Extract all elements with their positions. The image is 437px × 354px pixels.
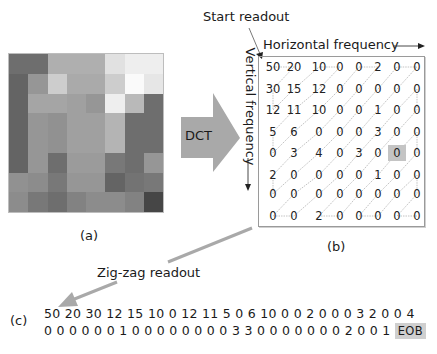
- dct-coefficient: 0: [350, 167, 368, 183]
- pixel-cell: [9, 94, 28, 114]
- dct-coefficient: 15: [285, 81, 303, 97]
- zigzag-sequence-values: 0 0 0 0 0 0 1 0 0 0 0 0 0 0 0 3 3 0 0 0 …: [44, 323, 390, 338]
- dct-coefficient: 20: [285, 59, 303, 75]
- dct-coefficient: 0: [369, 145, 387, 161]
- dct-label: DCT: [185, 128, 212, 143]
- dct-coefficient: 0: [408, 208, 426, 224]
- dct-coefficient: 0: [408, 59, 426, 75]
- pixel-cell: [125, 173, 144, 193]
- dct-coefficient: 0: [285, 167, 303, 183]
- pixel-cell: [48, 192, 67, 212]
- dct-coefficient: 0: [369, 81, 387, 97]
- pixel-cell: [67, 94, 86, 114]
- pixel-cell: [9, 74, 28, 94]
- pixel-cell: [9, 192, 28, 212]
- pixel-cell: [67, 192, 86, 212]
- dct-coefficient: 0: [310, 124, 328, 140]
- pixel-cell: [86, 192, 105, 212]
- pixel-cell: [86, 133, 105, 153]
- pixel-cell: [48, 94, 67, 114]
- dct-coefficient: 10: [310, 59, 328, 75]
- dct-coefficient: 1: [369, 167, 387, 183]
- pixel-cell: [125, 54, 144, 74]
- pixel-cell: [105, 133, 124, 153]
- pixel-cell: [105, 173, 124, 193]
- horizontal-arrow-icon: [393, 40, 427, 52]
- pixel-block-image: [8, 53, 164, 213]
- pixel-cell: [48, 54, 67, 74]
- dct-coefficient: 0: [285, 208, 303, 224]
- pixel-cell: [125, 94, 144, 114]
- dct-coefficient: 0: [408, 81, 426, 97]
- pixel-cell: [105, 74, 124, 94]
- dct-coefficient: 2: [310, 208, 328, 224]
- pixel-cell: [48, 113, 67, 133]
- dct-coefficient: 4: [310, 145, 328, 161]
- panel-c-label: (c): [10, 313, 27, 328]
- dct-coefficient: 0: [388, 59, 406, 75]
- pixel-cell: [144, 94, 163, 114]
- dct-coefficient: 0: [350, 102, 368, 118]
- dct-coefficient: 0: [388, 186, 406, 202]
- dct-coefficient: 0: [310, 186, 328, 202]
- pixel-cell: [144, 173, 163, 193]
- pixel-cell: [144, 54, 163, 74]
- pixel-cell: [86, 113, 105, 133]
- dct-coefficient: 0: [264, 186, 282, 202]
- pixel-cell: [105, 54, 124, 74]
- pixel-cell: [28, 54, 47, 74]
- start-readout-label: Start readout: [203, 9, 289, 24]
- vertical-frequency-label: Vertical frequency: [243, 48, 258, 158]
- pixel-cell: [67, 153, 86, 173]
- dct-coefficient: 0: [388, 145, 406, 161]
- pixel-cell: [28, 74, 47, 94]
- pixel-cell: [48, 133, 67, 153]
- pixel-cell: [67, 74, 86, 94]
- dct-coefficient: 3: [369, 124, 387, 140]
- dct-coefficient: 0: [331, 186, 349, 202]
- dct-coefficient: 5: [264, 124, 282, 140]
- pixel-cell: [28, 113, 47, 133]
- pixel-cell: [105, 192, 124, 212]
- pixel-cell: [28, 94, 47, 114]
- pixel-cell: [67, 54, 86, 74]
- dct-coefficient: 0: [331, 124, 349, 140]
- dct-coefficient: 0: [369, 186, 387, 202]
- dct-coefficient: 0: [331, 59, 349, 75]
- dct-coefficient: 0: [350, 59, 368, 75]
- pixel-cell: [86, 54, 105, 74]
- dct-coefficient: 0: [264, 208, 282, 224]
- dct-coefficient: 10: [310, 102, 328, 118]
- pixel-cell: [48, 153, 67, 173]
- dct-coefficient: 0: [350, 186, 368, 202]
- pixel-cell: [86, 153, 105, 173]
- dct-coefficient: 1: [369, 102, 387, 118]
- pixel-cell: [86, 173, 105, 193]
- dct-coefficient: 0: [350, 208, 368, 224]
- dct-coefficient-matrix: 5020100020030151200000121110001005600030…: [258, 56, 425, 227]
- pixel-cell: [67, 113, 86, 133]
- dct-coefficient: 11: [285, 102, 303, 118]
- pixel-cell: [144, 113, 163, 133]
- pixel-cell: [9, 54, 28, 74]
- dct-coefficient: 0: [388, 208, 406, 224]
- pixel-cell: [86, 94, 105, 114]
- dct-coefficient: 0: [388, 81, 406, 97]
- pixel-cell: [105, 94, 124, 114]
- dct-coefficient: 12: [310, 81, 328, 97]
- dct-coefficient: 0: [369, 208, 387, 224]
- pixel-cell: [144, 74, 163, 94]
- dct-coefficient: 0: [408, 145, 426, 161]
- pixel-cell: [125, 74, 144, 94]
- pixel-cell: [125, 113, 144, 133]
- dct-coefficient: 0: [331, 102, 349, 118]
- dct-coefficient: 2: [369, 59, 387, 75]
- pixel-cell: [48, 74, 67, 94]
- dct-coefficient: 0: [264, 145, 282, 161]
- dct-coefficient: 0: [331, 81, 349, 97]
- dct-coefficient: 0: [310, 167, 328, 183]
- pixel-cell: [125, 153, 144, 173]
- pixel-cell: [144, 153, 163, 173]
- dct-coefficient: 0: [331, 145, 349, 161]
- dct-coefficient: 0: [408, 167, 426, 183]
